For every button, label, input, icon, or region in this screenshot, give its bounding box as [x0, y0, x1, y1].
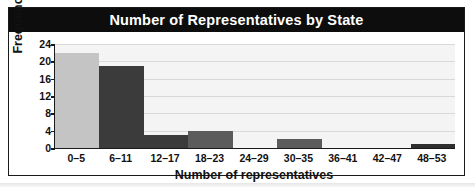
x-tick-label: 6–11: [98, 152, 142, 164]
y-tick-mark: [51, 79, 55, 81]
bar: [411, 144, 455, 148]
bar: [277, 139, 321, 148]
y-tick-label: 12: [27, 91, 51, 101]
y-axis-tick-labels: 04812162024: [27, 44, 51, 148]
y-tick-mark: [51, 131, 55, 133]
chart-body: Frequency 04812162024 0–56–1112–1718–232…: [9, 32, 464, 175]
y-tick-label: 8: [27, 108, 51, 118]
x-tick-label: 12–17: [143, 152, 187, 164]
bar: [55, 53, 99, 148]
bar: [188, 131, 232, 148]
chart-title: Number of Representatives by State: [109, 12, 363, 28]
x-tick-label: 42–47: [365, 152, 409, 164]
chart-card: Number of Representatives by State Frequ…: [8, 7, 465, 176]
x-tick-label: 0–5: [54, 152, 98, 164]
x-tick-label: 48–53: [410, 152, 454, 164]
y-tick-label: 20: [27, 56, 51, 66]
x-tick-label: 30–35: [276, 152, 320, 164]
page-edge-strip: [0, 183, 475, 187]
y-tick-mark: [51, 44, 55, 46]
x-axis-title: Number of representatives: [54, 168, 454, 182]
x-tick-label: 24–29: [232, 152, 276, 164]
chart-title-band: Number of Representatives by State: [9, 8, 464, 32]
x-tick-label: 36–41: [321, 152, 365, 164]
x-tick-label: 18–23: [187, 152, 231, 164]
y-tick-label: 24: [27, 39, 51, 49]
chart-figure: Number of Representatives by State Frequ…: [0, 0, 475, 191]
y-tick-mark: [51, 113, 55, 115]
y-axis-title: Frequency: [11, 0, 25, 70]
y-tick-label: 0: [27, 143, 51, 153]
bar-series: [55, 44, 455, 148]
bar: [99, 66, 143, 148]
x-axis-tick-labels: 0–56–1112–1718–2324–2930–3536–4142–4748–…: [54, 152, 454, 166]
bar: [144, 135, 188, 148]
y-tick-mark: [51, 61, 55, 63]
y-tick-label: 4: [27, 126, 51, 136]
y-tick-mark: [51, 96, 55, 98]
plot-area: [54, 44, 455, 149]
y-tick-mark: [51, 148, 55, 150]
y-tick-label: 16: [27, 74, 51, 84]
